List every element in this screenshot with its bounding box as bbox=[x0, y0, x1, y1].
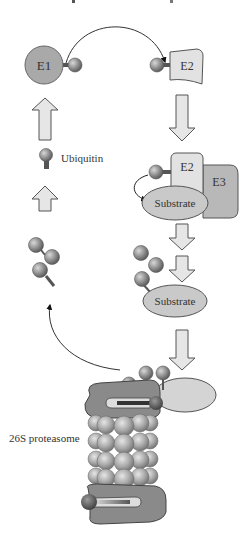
substrate-2-label: Substrate bbox=[155, 295, 196, 307]
substrate-1-label: Substrate bbox=[155, 197, 196, 209]
proteasome-26s bbox=[81, 366, 216, 524]
up-arrow-1 bbox=[32, 98, 58, 140]
down-arrow-3 bbox=[169, 256, 195, 282]
proteasome-core bbox=[88, 414, 158, 489]
ubiquitin-legend: Ubiquitin bbox=[40, 149, 104, 170]
e3-label: E3 bbox=[212, 175, 225, 189]
clipped-title-text bbox=[72, 0, 173, 3]
ubiquitin-label: Ubiquitin bbox=[61, 152, 104, 164]
up-arrow-2 bbox=[32, 186, 58, 211]
e1-label: E1 bbox=[37, 58, 51, 73]
down-arrow-2 bbox=[169, 224, 195, 250]
ubiquitin-on-e2 bbox=[150, 58, 164, 72]
transfer-arrow-e1-e2 bbox=[66, 27, 165, 63]
ubiquitin-icon bbox=[40, 149, 53, 162]
free-polyubiquitin-chain bbox=[29, 238, 60, 287]
ubiquitin-on-e2-complex bbox=[149, 165, 163, 179]
polyubiquitinated-substrate: Substrate bbox=[134, 246, 208, 318]
e2-enzyme: E2 bbox=[150, 49, 203, 84]
e2-complex-label: E2 bbox=[180, 160, 193, 174]
down-arrow-4 bbox=[169, 330, 195, 370]
proteasome-label: 26S proteasome bbox=[9, 432, 80, 444]
down-arrow-1 bbox=[169, 95, 195, 141]
ubiquitin-proteasome-diagram: E1 E2 Ubiquitin E3 E2 Substrate bbox=[0, 0, 251, 554]
ubiquitin-on-e1 bbox=[68, 58, 82, 72]
e2-label: E2 bbox=[180, 59, 193, 73]
ubiquitin-recycle-arrow bbox=[49, 305, 120, 370]
e2-e3-substrate-complex: E3 E2 Substrate bbox=[134, 153, 238, 220]
e1-enzyme: E1 bbox=[25, 46, 82, 84]
